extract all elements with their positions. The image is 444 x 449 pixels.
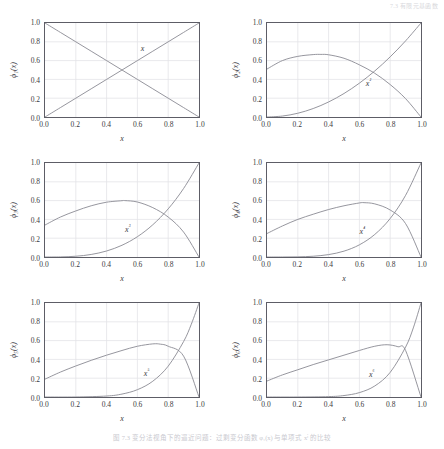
x-tick-label: 0.2 bbox=[293, 400, 302, 409]
curve-phi_6 bbox=[267, 345, 421, 397]
x-tick-label: 0.6 bbox=[355, 400, 364, 409]
curve-annotation-4: x⁴ bbox=[360, 225, 365, 236]
y-axis-label-wrap-5: ϕ₅(x) bbox=[6, 302, 20, 398]
y-axis-label-wrap-6: ϕ₆(x) bbox=[228, 302, 242, 398]
x-tick-label: 0.8 bbox=[164, 260, 173, 269]
curve-x^5 bbox=[45, 303, 199, 397]
curve-x^4 bbox=[267, 163, 421, 257]
y-axis-label-wrap-3: ϕ₃(x) bbox=[6, 162, 20, 258]
figure-caption: 图 7.3 变分法视角下的逼近问题：过剩变分函数 φ₁(x) 与单项式 xⁱ 的… bbox=[0, 432, 444, 442]
figure-panel-grid: ϕ₁(x)0.00.20.40.60.81.0x0.00.20.40.60.81… bbox=[0, 10, 444, 430]
curve-x^6 bbox=[267, 303, 421, 397]
y-tick-label: 0.2 bbox=[253, 234, 262, 243]
y-tick-label: 0.6 bbox=[253, 196, 262, 205]
curve-annotation-3: x³ bbox=[125, 223, 130, 234]
y-axis-label: ϕ₆(x) bbox=[231, 342, 240, 358]
x-tick-label: 0.0 bbox=[39, 260, 48, 269]
y-tick-label: 0.8 bbox=[253, 177, 262, 186]
plot-area-6 bbox=[266, 302, 422, 398]
x-tick-label: 0.0 bbox=[39, 400, 48, 409]
x-tick-label: 1.0 bbox=[195, 260, 204, 269]
x-tick-label: 0.2 bbox=[293, 260, 302, 269]
y-tick-label: 1.0 bbox=[253, 158, 262, 167]
curve-annotation-2: x² bbox=[366, 77, 371, 88]
y-tick-label: 0.4 bbox=[253, 215, 262, 224]
y-tick-label: 0.6 bbox=[31, 336, 40, 345]
x-tick-label: 0.0 bbox=[261, 120, 270, 129]
x-tick-label: 0.4 bbox=[102, 120, 111, 129]
x-tick-label: 0.6 bbox=[133, 260, 142, 269]
y-tick-label: 0.4 bbox=[31, 355, 40, 364]
y-tick-label: 0.2 bbox=[253, 374, 262, 383]
y-axis-label: ϕ₂(x) bbox=[231, 62, 240, 78]
y-tick-label: 1.0 bbox=[253, 298, 262, 307]
y-axis-label: ϕ₁(x) bbox=[9, 62, 18, 78]
x-tick-label: 1.0 bbox=[195, 120, 204, 129]
y-axis-label-wrap-1: ϕ₁(x) bbox=[6, 22, 20, 118]
x-tick-label: 0.6 bbox=[133, 120, 142, 129]
plot-area-2 bbox=[266, 22, 422, 118]
y-tick-label: 0.8 bbox=[31, 177, 40, 186]
subplot-4: ϕ₄(x)0.00.20.40.60.81.0x⁴0.00.20.40.60.8… bbox=[222, 150, 444, 290]
x-axis-label: x bbox=[266, 274, 422, 283]
x-tick-label: 1.0 bbox=[417, 260, 426, 269]
y-tick-label: 0.4 bbox=[31, 215, 40, 224]
x-tick-label: 0.0 bbox=[261, 260, 270, 269]
x-tick-label: 0.4 bbox=[324, 120, 333, 129]
y-tick-label: 0.6 bbox=[253, 56, 262, 65]
x-tick-label: 1.0 bbox=[195, 400, 204, 409]
x-axis-label: x bbox=[44, 274, 200, 283]
y-axis-label: ϕ₅(x) bbox=[9, 342, 18, 358]
curve-phi_2 bbox=[267, 54, 421, 117]
y-tick-label: 0.2 bbox=[31, 374, 40, 383]
x-axis-label: x bbox=[44, 414, 200, 423]
y-tick-label: 0.8 bbox=[31, 37, 40, 46]
y-tick-label: 1.0 bbox=[31, 18, 40, 27]
x-tick-label: 0.8 bbox=[386, 120, 395, 129]
x-tick-label: 0.4 bbox=[102, 260, 111, 269]
y-tick-label: 0.8 bbox=[253, 37, 262, 46]
x-tick-label: 0.2 bbox=[71, 120, 80, 129]
curve-x^3 bbox=[45, 163, 199, 257]
x-tick-label: 0.6 bbox=[355, 260, 364, 269]
page-header: 7.3 有限元基函数 bbox=[390, 1, 438, 10]
y-axis-label-wrap-4: ϕ₄(x) bbox=[228, 162, 242, 258]
y-tick-label: 0.8 bbox=[31, 317, 40, 326]
plot-area-5 bbox=[44, 302, 200, 398]
x-tick-label: 0.4 bbox=[102, 400, 111, 409]
subplot-2: ϕ₂(x)0.00.20.40.60.81.0x²0.00.20.40.60.8… bbox=[222, 10, 444, 150]
y-tick-label: 0.6 bbox=[31, 196, 40, 205]
x-tick-label: 0.6 bbox=[355, 120, 364, 129]
x-tick-label: 0.0 bbox=[261, 400, 270, 409]
subplot-1: ϕ₁(x)0.00.20.40.60.81.0x0.00.20.40.60.81… bbox=[0, 10, 222, 150]
curve-annotation-6: x⁶ bbox=[369, 368, 374, 379]
y-tick-label: 0.4 bbox=[253, 355, 262, 364]
x-tick-label: 0.2 bbox=[293, 120, 302, 129]
y-tick-label: 0.2 bbox=[253, 94, 262, 103]
x-axis-label: x bbox=[266, 414, 422, 423]
x-tick-label: 0.2 bbox=[71, 400, 80, 409]
subplot-6: ϕ₆(x)0.00.20.40.60.81.0x⁶0.00.20.40.60.8… bbox=[222, 290, 444, 430]
y-tick-label: 0.4 bbox=[31, 75, 40, 84]
plot-area-4 bbox=[266, 162, 422, 258]
curve-phi_4 bbox=[267, 203, 421, 257]
curve-annotation-5: x⁵ bbox=[144, 367, 149, 378]
x-tick-label: 0.2 bbox=[71, 260, 80, 269]
x-axis-label: x bbox=[44, 134, 200, 143]
y-axis-label: ϕ₃(x) bbox=[9, 202, 18, 218]
y-tick-label: 0.6 bbox=[31, 56, 40, 65]
curve-x^2 bbox=[267, 23, 421, 117]
curve-annotation-1: x bbox=[141, 44, 145, 53]
y-axis-label-wrap-2: ϕ₂(x) bbox=[228, 22, 242, 118]
x-tick-label: 0.0 bbox=[39, 120, 48, 129]
x-axis-label: x bbox=[266, 134, 422, 143]
x-tick-label: 0.8 bbox=[164, 120, 173, 129]
y-tick-label: 0.2 bbox=[31, 234, 40, 243]
x-tick-label: 0.4 bbox=[324, 260, 333, 269]
subplot-5: ϕ₅(x)0.00.20.40.60.81.0x⁵0.00.20.40.60.8… bbox=[0, 290, 222, 430]
plot-area-3 bbox=[44, 162, 200, 258]
y-tick-label: 0.4 bbox=[253, 75, 262, 84]
x-tick-label: 0.4 bbox=[324, 400, 333, 409]
plot-area-1 bbox=[44, 22, 200, 118]
y-tick-label: 1.0 bbox=[253, 18, 262, 27]
